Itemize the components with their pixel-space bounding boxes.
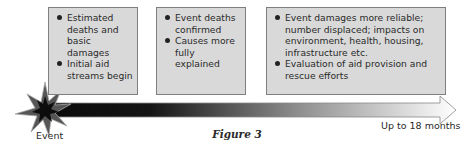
phase-2-item: Causes more fully explained bbox=[163, 35, 241, 70]
phase-1-item: Estimated deaths and basic damages bbox=[55, 12, 133, 58]
bullet-icon bbox=[57, 15, 62, 20]
bullet-icon bbox=[165, 15, 170, 20]
phase-box-3: Event damages more reliable; number disp… bbox=[266, 7, 446, 95]
phase-3-item: Evaluation of aid provision and rescue e… bbox=[273, 58, 441, 81]
bullet-icon bbox=[165, 38, 170, 43]
phase-1-item: Initial aid streams begin bbox=[55, 58, 133, 81]
bullet-icon bbox=[57, 61, 62, 66]
bullet-icon bbox=[275, 61, 280, 66]
phase-2-item: Event deaths confirmed bbox=[163, 12, 241, 35]
phase-3-item: Event damages more reliable; number disp… bbox=[273, 12, 441, 58]
figure-caption: Figure 3 bbox=[0, 128, 474, 140]
phase-box-1: Estimated deaths and basic damages Initi… bbox=[48, 7, 138, 95]
phase-box-2: Event deaths confirmed Causes more fully… bbox=[156, 7, 246, 95]
bullet-icon bbox=[275, 15, 280, 20]
